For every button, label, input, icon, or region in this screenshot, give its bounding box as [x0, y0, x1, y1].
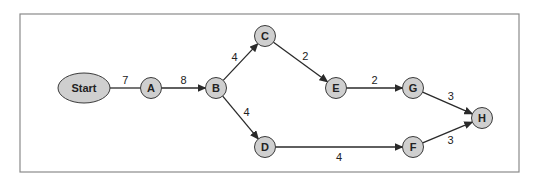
edge-weight-label: 3 [448, 90, 454, 102]
edge-weight-label: 2 [302, 50, 308, 62]
node-d: D [255, 137, 276, 158]
node-label: A [147, 82, 155, 94]
node-a: A [141, 78, 162, 99]
node-start: Start [58, 73, 110, 103]
node-label: B [212, 82, 220, 94]
edge-weight-label: 4 [244, 106, 250, 118]
node-label: G [409, 82, 418, 94]
node-label: F [410, 141, 417, 153]
edge-weight-label: 4 [336, 151, 342, 163]
node-b: B [206, 78, 227, 99]
node-label: E [332, 82, 339, 94]
node-label: Start [71, 82, 96, 94]
edge-weight-label: 8 [180, 74, 186, 86]
node-label: C [261, 30, 269, 42]
network-diagram: 784422433 StartABCDEGFH [0, 0, 547, 181]
node-c: C [255, 26, 276, 47]
node-label: H [478, 112, 486, 124]
edge-weight-label: 7 [122, 74, 128, 86]
node-f: F [403, 137, 424, 158]
node-label: D [261, 141, 269, 153]
node-e: E [326, 78, 347, 99]
node-h: H [472, 108, 493, 129]
edge-weight-label: 2 [371, 74, 377, 86]
edge-weight-label: 4 [232, 51, 238, 63]
node-g: G [403, 78, 424, 99]
edge-weight-label: 3 [448, 134, 454, 146]
